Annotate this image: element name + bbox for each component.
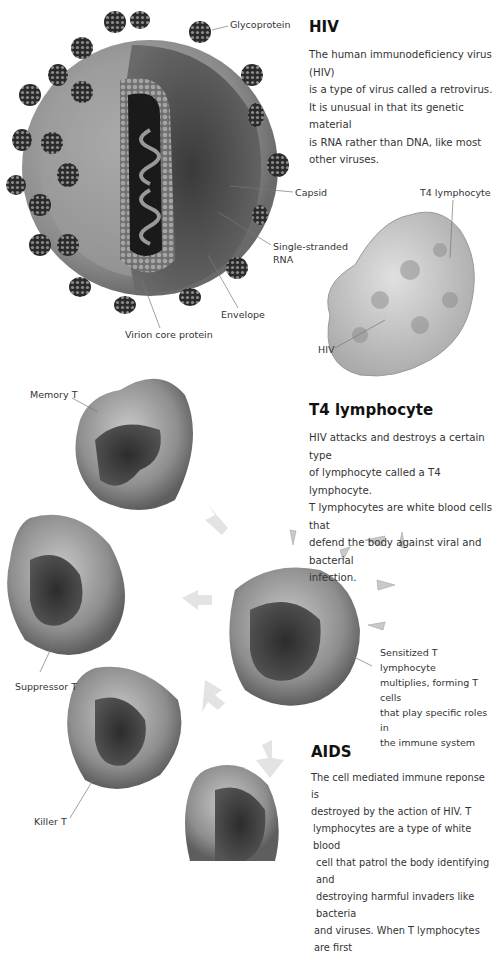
text-line: and viruses. When T lymphocytes are firs… [311, 922, 494, 955]
label-line: Sensitized T lymphocyte [380, 645, 494, 675]
label-line: the immune system [380, 735, 494, 750]
t4-description: HIV attacks and destroys a certain type … [309, 429, 494, 587]
aids-title: AIDS [311, 743, 351, 761]
label-line: multiplies, forming T cells [380, 675, 494, 705]
label-capsid: Capsid [295, 186, 327, 199]
label-envelope: Envelope [221, 308, 265, 321]
text-line: HIV attacks and destroys a certain type [309, 429, 494, 464]
text-line: The cell mediated immune reponse is [311, 769, 494, 803]
t4-title: T4 lymphocyte [309, 401, 433, 419]
hiv-description: The human immunodeficiency virus (HIV) i… [309, 46, 494, 169]
text-line: other viruses. [309, 151, 494, 169]
text-line: T lymphocytes are white blood cells that [309, 499, 494, 534]
hiv-virion-illustration [6, 11, 289, 314]
label-memory-t: Memory T [30, 388, 77, 401]
text-line: cell that patrol the body identifying an… [311, 854, 494, 888]
label-line: RNA [273, 253, 348, 266]
text-line: lymphocytes are a type of white blood [311, 820, 494, 854]
text-line: of lymphocyte called a T4 lymphocyte. [309, 464, 494, 499]
hiv-title: HIV [309, 18, 339, 36]
label-sensitized-t: Sensitized T lymphocyte multiplies, form… [380, 645, 494, 750]
label-hiv: HIV [318, 343, 334, 356]
label-single-stranded-rna: Single-stranded RNA [273, 240, 348, 266]
text-line: is a type of virus called a retrovirus. [309, 81, 494, 99]
text-line: The human immunodeficiency virus (HIV) [309, 46, 494, 81]
text-line: destroyed by the action of HIV. T [311, 803, 494, 820]
label-line: Single-stranded [273, 240, 348, 253]
t4-lymphocyte-illustration [328, 212, 475, 376]
label-killer-t: Killer T [34, 815, 67, 828]
text-line: defend the body against viral and bacter… [309, 534, 494, 569]
label-glycoprotein: Glycoprotein [230, 18, 290, 31]
label-t4-lymphocyte: T4 lymphocyte [420, 186, 491, 199]
text-line: It is unusual in that its genetic materi… [309, 99, 494, 134]
label-suppressor-t: Suppressor T [15, 680, 77, 693]
aids-description: The cell mediated immune reponse is dest… [311, 769, 494, 955]
text-line: infection. [309, 569, 494, 587]
text-line: destroying harmful invaders like bacteri… [311, 888, 494, 922]
label-line: that play specific roles in [380, 705, 494, 735]
text-line: is RNA rather than DNA, like most [309, 134, 494, 152]
label-virion-core-protein: Virion core protein [125, 328, 213, 341]
